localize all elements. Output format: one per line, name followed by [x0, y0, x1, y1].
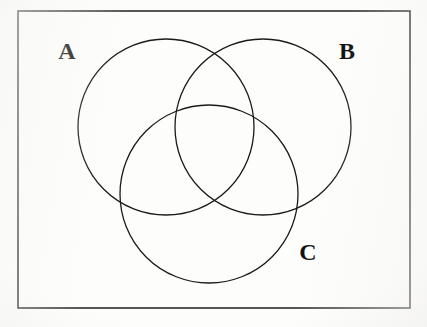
set-label-c: C [299, 239, 316, 265]
venn-circle-a [78, 39, 254, 215]
venn-circle-c [120, 105, 298, 283]
set-label-a: A [58, 38, 76, 64]
set-label-b: B [339, 38, 355, 64]
venn-circle-b [175, 39, 351, 215]
venn-diagram-figure: A B C [0, 0, 427, 327]
venn-diagram-canvas: A B C [0, 0, 427, 327]
